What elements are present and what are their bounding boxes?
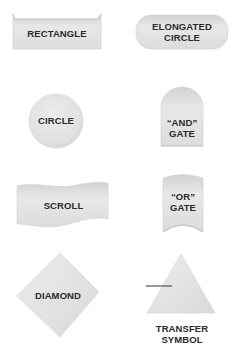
or-gate-label-line2: GATE: [162, 202, 204, 213]
elongated-circle-shape: ELONGATED CIRCLE: [135, 12, 229, 50]
elongated-circle-label-line1: ELONGATED: [135, 21, 229, 32]
transfer-triangle-icon: [140, 253, 230, 315]
and-gate-label-line2: GATE: [160, 128, 204, 139]
and-gate-label: “AND” GATE: [160, 117, 204, 139]
rectangle-label: RECTANGLE: [12, 28, 102, 39]
transfer-symbol-shape: TRANSFER SYMBOL: [140, 253, 230, 353]
transfer-symbol-label-line2: SYMBOL: [140, 334, 224, 345]
diamond-shape: DIAMOND: [14, 252, 100, 338]
transfer-symbol-label-line1: TRANSFER: [140, 323, 224, 334]
elongated-circle-label-line2: CIRCLE: [135, 32, 229, 43]
circle-label: CIRCLE: [28, 115, 84, 126]
diamond-label: DIAMOND: [16, 290, 100, 301]
and-gate-shape: “AND” GATE: [160, 87, 204, 147]
or-gate-label: “OR” GATE: [162, 191, 204, 213]
or-gate-shape: “OR” GATE: [162, 170, 204, 234]
or-gate-label-line1: “OR”: [162, 191, 204, 202]
circle-shape: CIRCLE: [28, 93, 84, 149]
scroll-shape: SCROLL: [15, 180, 110, 230]
elongated-circle-label: ELONGATED CIRCLE: [135, 21, 229, 43]
transfer-symbol-label: TRANSFER SYMBOL: [140, 323, 224, 345]
scroll-label: SCROLL: [17, 200, 110, 211]
rectangle-shape: RECTANGLE: [12, 12, 102, 50]
and-gate-label-line1: “AND”: [160, 117, 204, 128]
